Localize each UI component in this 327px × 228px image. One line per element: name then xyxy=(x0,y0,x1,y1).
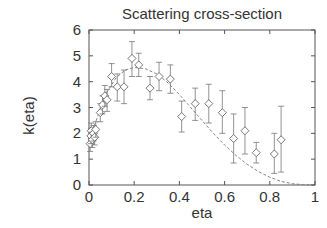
data-point-diamond xyxy=(277,136,285,144)
data-point-diamond xyxy=(128,54,136,62)
y-tick-label: 0 xyxy=(73,176,81,193)
y-tick-label: 2 xyxy=(73,124,81,141)
data-point-diamond xyxy=(166,75,174,83)
y-tick-label: 1 xyxy=(73,150,81,167)
x-tick-label: 1 xyxy=(311,188,319,205)
data-point-diamond xyxy=(270,150,278,158)
y-tick-label: 3 xyxy=(73,99,81,116)
y-tick-label: 5 xyxy=(73,47,81,64)
x-tick-label: 0.4 xyxy=(169,188,190,205)
y-tick-label: 4 xyxy=(73,73,81,90)
data-point-diamond xyxy=(218,109,226,117)
data-point-diamond xyxy=(241,127,249,135)
data-point-diamond xyxy=(146,84,154,92)
x-tick-label: 0.8 xyxy=(259,188,280,205)
data-point-diamond xyxy=(178,113,186,121)
y-tick-label: 6 xyxy=(73,21,81,38)
data-point-diamond xyxy=(252,149,260,157)
x-tick-label: 0.2 xyxy=(124,188,145,205)
x-tick-label: 0 xyxy=(85,188,93,205)
plot-area: 00.20.40.60.810123456 xyxy=(0,0,327,228)
data-point-diamond xyxy=(120,83,128,91)
data-point-diamond xyxy=(191,100,199,108)
data-point-diamond xyxy=(205,100,213,108)
data-point-diamond xyxy=(230,135,238,143)
x-tick-label: 0.6 xyxy=(214,188,235,205)
